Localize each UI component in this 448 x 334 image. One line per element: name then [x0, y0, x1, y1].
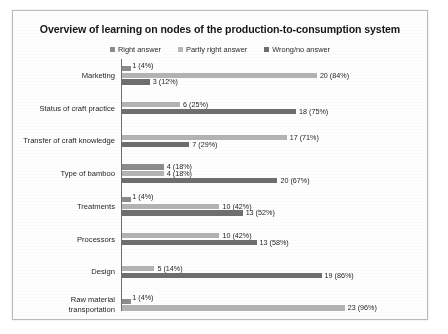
bar-partly-right-answer: 4 (18%) [122, 171, 192, 176]
bar-partly-right-answer: 10 (42%) [122, 233, 252, 238]
bar-value-label: 1 (4%) [132, 193, 153, 200]
bar-rect [122, 142, 189, 147]
category-label: Processors [77, 235, 115, 244]
bar-rect [122, 102, 180, 107]
legend-label: Partly right answer [186, 45, 247, 54]
legend-swatch-icon [178, 47, 183, 52]
bar-rect [122, 164, 164, 169]
category-label-row: Raw material transportation [23, 288, 121, 321]
bar-wrong-no-answer: 3 (12%) [122, 79, 178, 84]
bar-rect [122, 73, 317, 78]
category-axis: MarketingStatus of craft practiceTransfe… [23, 59, 121, 311]
bar-group: 1 (4%)20 (84%)3 (12%) [122, 59, 419, 92]
bar-wrong-no-answer: 20 (67%) [122, 178, 310, 183]
legend-item-2: Wrong/no answer [264, 45, 330, 54]
bar-value-label: 1 (4%) [132, 62, 153, 69]
category-label-row: Marketing [23, 59, 121, 92]
bar-value-label: 13 (58%) [260, 239, 289, 246]
bar-partly-right-answer: 5 (14%) [122, 266, 183, 271]
plot-area: MarketingStatus of craft practiceTransfe… [23, 59, 419, 311]
chart-title: Overview of learning on nodes of the pro… [13, 23, 427, 35]
bar-partly-right-answer: 17 (71%) [122, 135, 319, 140]
bar-rect [122, 109, 296, 114]
bar-value-label: 17 (71%) [290, 134, 319, 141]
category-label-row: Design [23, 256, 121, 289]
bar-group: 5 (14%)19 (86%) [122, 256, 419, 289]
bar-rect [122, 210, 243, 215]
bar-value-label: 6 (25%) [183, 101, 208, 108]
bar-group: 10 (42%)13 (58%) [122, 223, 419, 256]
bar-partly-right-answer: 23 (96%) [122, 305, 377, 310]
bar-rect [122, 197, 131, 202]
bar-value-label: 20 (84%) [320, 72, 349, 79]
bar-rect [122, 273, 322, 278]
bar-group: 1 (4%)10 (42%)13 (52%) [122, 190, 419, 223]
bar-rect [122, 79, 150, 84]
legend-item-0: Right answer [110, 45, 161, 54]
bars-region: 1 (4%)20 (84%)3 (12%)6 (25%)18 (75%)17 (… [121, 59, 419, 311]
bar-value-label: 23 (96%) [348, 304, 377, 311]
category-label-row: Treatments [23, 190, 121, 223]
category-label-row: Transfer of craft knowledge [23, 125, 121, 158]
bar-partly-right-answer: 6 (25%) [122, 102, 208, 107]
bar-value-label: 10 (42%) [222, 232, 251, 239]
bar-value-label: 1 (4%) [132, 294, 153, 301]
category-label: Type of bamboo [61, 169, 115, 178]
bar-rect [122, 178, 277, 183]
bar-value-label: 3 (12%) [153, 78, 178, 85]
bar-value-label: 19 (86%) [325, 272, 354, 279]
bar-partly-right-answer: 10 (42%) [122, 204, 252, 209]
bar-right-answer: 1 (4%) [122, 299, 131, 304]
bar-value-label: 4 (18%) [167, 170, 192, 177]
bar-value-label: 18 (75%) [299, 108, 328, 115]
chart-figure-frame: Overview of learning on nodes of the pro… [12, 10, 428, 320]
legend-item-1: Partly right answer [178, 45, 247, 54]
bar-group: 4 (18%)4 (18%)20 (67%) [122, 157, 419, 190]
category-label-row: Processors [23, 223, 121, 256]
category-label: Raw material transportation [23, 295, 115, 314]
bar-wrong-no-answer: 19 (86%) [122, 273, 354, 278]
bar-rect [122, 233, 219, 238]
legend-swatch-icon [110, 47, 115, 52]
bar-wrong-no-answer: 13 (58%) [122, 240, 289, 245]
bar-wrong-no-answer: 13 (52%) [122, 210, 275, 215]
category-label-row: Type of bamboo [23, 157, 121, 190]
category-label-row: Status of craft practice [23, 92, 121, 125]
bar-rect [122, 66, 131, 71]
category-label: Marketing [82, 71, 115, 80]
bar-rect [122, 171, 164, 176]
bar-group: 6 (25%)18 (75%) [122, 92, 419, 125]
category-label: Status of craft practice [39, 104, 115, 113]
bar-wrong-no-answer: 18 (75%) [122, 109, 328, 114]
bar-rect [122, 299, 131, 304]
bar-right-answer: 1 (4%) [122, 197, 131, 202]
legend-swatch-icon [264, 47, 269, 52]
bar-value-label: 5 (14%) [157, 265, 182, 272]
bar-group: 1 (4%)23 (96%) [122, 288, 419, 321]
bar-rect [122, 204, 219, 209]
bar-wrong-no-answer: 7 (29%) [122, 142, 217, 147]
bar-rect [122, 240, 257, 245]
bar-value-label: 13 (52%) [246, 209, 275, 216]
legend-label: Wrong/no answer [272, 45, 330, 54]
bar-rect [122, 305, 345, 310]
chart-legend: Right answerPartly right answerWrong/no … [13, 45, 427, 54]
bar-rect [122, 266, 154, 271]
bar-right-answer: 1 (4%) [122, 66, 131, 71]
category-label: Transfer of craft knowledge [23, 136, 115, 145]
bar-group: 17 (71%)7 (29%) [122, 125, 419, 158]
bar-value-label: 7 (29%) [192, 141, 217, 148]
bar-value-label: 20 (67%) [280, 177, 309, 184]
category-label: Treatments [77, 202, 115, 211]
category-label: Design [91, 267, 115, 276]
legend-label: Right answer [118, 45, 161, 54]
